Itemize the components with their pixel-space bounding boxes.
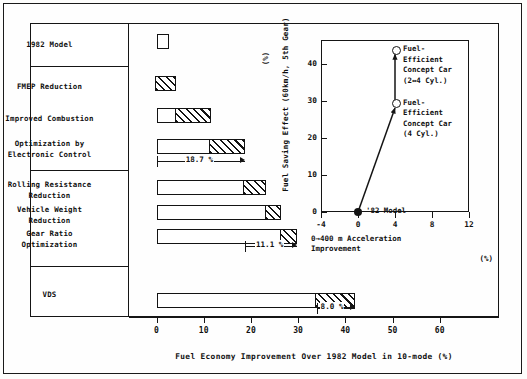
x-tick-label: 60 [425,326,455,335]
group-divider [30,170,129,171]
row-label: VDS [0,290,99,301]
bar-increment-hatched [155,76,176,91]
bar-cumulative [157,293,317,308]
row-label: FMEP Reduction [0,82,99,93]
inset-point-label: Fuel-EfficientConcept Car(4 Cyl.) [403,98,452,140]
inset-point-concept [392,99,401,108]
inset-x-axis-unit: (%) [479,254,493,264]
bar-cumulative [157,108,177,123]
annotation-value: 8.0 % [320,302,345,311]
annotation-arrow-icon [350,304,355,310]
inset-x-axis-label: 0→400 m Acceleration Improvement(%) [311,234,493,264]
span-annotation: 18.7 % [157,155,245,168]
bar-increment-hatched [209,139,244,154]
row-label: Vehicle WeightReduction [0,205,99,226]
figure-root: 1982 ModelFMEP ReductionImproved Combust… [0,0,527,379]
annotation-arrow-icon [240,157,245,163]
x-tick-label: 40 [330,326,360,335]
x-axis-title: Fuel Economy Improvement Over 1982 Model… [129,352,499,361]
x-axis [129,317,499,318]
x-tick-label: 30 [283,326,313,335]
x-tick [157,317,158,323]
row-label: Optimization byElectronic Control [0,139,99,160]
x-tick-label: 10 [189,326,219,335]
x-tick-label: 20 [236,326,266,335]
x-tick [251,317,252,323]
x-tick [393,317,394,323]
inset-point-label: '82 Model [366,206,406,217]
bar-cumulative [157,205,267,220]
row-label: 1982 Model [0,40,99,51]
x-tick [298,317,299,323]
inset-point-concept [392,46,401,55]
inset-x-axis-label-line2: Improvement [311,244,493,254]
x-tick [204,317,205,323]
annotation-value: 18.7 % [185,155,214,164]
inset-trend-arrow [358,108,395,212]
row-label: Improved Combustion [0,114,99,125]
row-label: Gear RatioOptimization [0,229,99,250]
bar-increment-hatched [175,108,211,123]
x-tick [345,317,346,323]
group-divider [30,66,129,67]
x-tick-label: 0 [142,326,172,335]
x-tick [440,317,441,323]
inset-point-baseline [354,208,362,216]
inset-chart: Fuel Saving Effect (60km/h, 5th Gear) (%… [253,28,496,250]
inset-x-axis-label-text: 0→400 m Acceleration [311,234,401,243]
x-tick-label: 50 [378,326,408,335]
bar-cumulative [157,34,169,49]
inset-point-label: Fuel-EfficientConcept Car(2↔4 Cyl.) [403,44,452,86]
inset-arrow-overlay [253,28,496,250]
group-divider [30,266,129,267]
span-annotation: 8.0 % [317,302,355,315]
row-label: Rolling ResistanceReduction [0,180,99,201]
bar-cumulative [157,139,211,154]
bar-cumulative [157,180,245,195]
